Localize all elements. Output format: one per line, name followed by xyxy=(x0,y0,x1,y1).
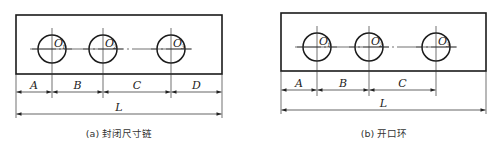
diagram-closed-chain: O1O2O3ABCDL xyxy=(16,15,222,118)
hole-label-sub: 2 xyxy=(112,43,117,50)
hole-label-sub: 3 xyxy=(446,41,450,48)
dimension-label-B: B xyxy=(338,77,347,90)
diagram-open-ring: O1O2O3ABCL xyxy=(281,13,486,114)
dimension-label-total: L xyxy=(114,101,122,114)
plate-outline xyxy=(281,13,486,71)
dimension-label-C: C xyxy=(133,79,142,92)
dimension-label-B: B xyxy=(72,79,81,92)
hole-label-sub: 3 xyxy=(181,43,185,50)
caption-a: (a) 封闭尺寸链 xyxy=(86,128,152,139)
dimension-label-C: C xyxy=(398,77,407,90)
hole-label-sub: 1 xyxy=(327,41,331,48)
hole-label-sub: 2 xyxy=(378,41,383,48)
dimension-label-A: A xyxy=(29,79,38,92)
dimension-label-D: D xyxy=(191,79,201,92)
dimension-label-total: L xyxy=(379,97,387,110)
dimension-label-A: A xyxy=(294,77,303,90)
dimension-chain-figure: O1O2O3ABCDL O1O2O3ABCL (a) 封闭尺寸链 (b) 开口环 xyxy=(0,0,492,147)
hole-label-sub: 1 xyxy=(62,43,66,50)
caption-b: (b) 开口环 xyxy=(361,128,407,139)
plate-outline xyxy=(16,15,222,74)
